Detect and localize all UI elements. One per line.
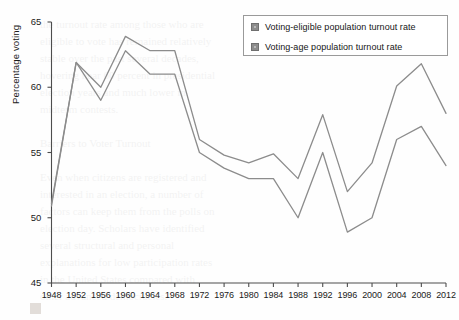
y-axis-tick-label: 55 (22, 147, 42, 158)
series-line (52, 51, 447, 232)
x-axis-tick-label: 2012 (432, 290, 459, 300)
legend-label: Voting-eligible population turnout rate (265, 22, 416, 32)
y-axis-title: Percentage voting (10, 90, 21, 104)
chart-figure: the turnout rate among those who areelig… (0, 0, 459, 320)
y-axis-tick-label: 50 (22, 212, 42, 223)
page-corner-artifact (30, 303, 41, 314)
chart-legend: Voting-eligible population turnout rate … (243, 15, 448, 56)
legend-item-voting-eligible: Voting-eligible population turnout rate (251, 18, 447, 36)
legend-swatch-icon (251, 23, 259, 31)
y-axis-tick-label: 45 (22, 277, 42, 288)
legend-swatch-icon (251, 43, 259, 51)
legend-item-voting-age: Voting-age population turnout rate (251, 38, 447, 56)
axis-group (48, 22, 447, 287)
y-axis-tick-label: 65 (22, 16, 42, 27)
series-group (52, 36, 447, 232)
y-axis-tick-label: 60 (22, 81, 42, 92)
legend-label: Voting-age population turnout rate (265, 42, 402, 52)
